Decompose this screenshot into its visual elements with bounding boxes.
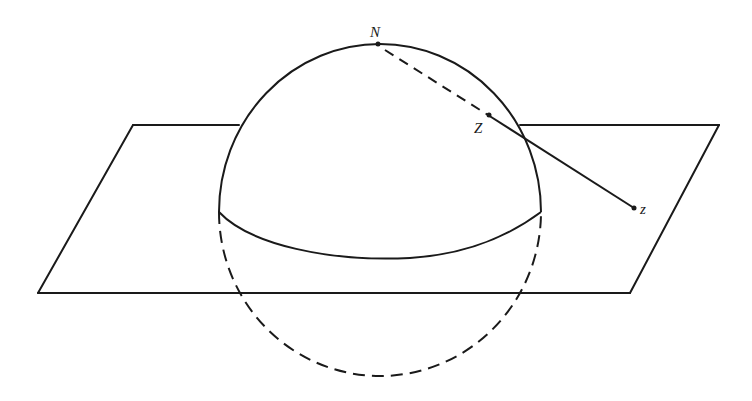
north-pole-point: [376, 42, 381, 47]
sphere-point-Z: [487, 113, 492, 118]
projection-line-hidden: [385, 50, 488, 115]
sphere-plane-intersection: [219, 212, 541, 259]
label-plane-point: z: [640, 202, 646, 217]
label-sphere-point: Z: [474, 121, 482, 136]
plane: [38, 125, 719, 293]
projection-line-visible: [488, 115, 634, 208]
sphere-upper-outline: [219, 44, 541, 212]
plane-left-edge: [38, 125, 133, 293]
plane-point-z: [632, 206, 637, 211]
label-north-pole: N: [370, 25, 380, 40]
